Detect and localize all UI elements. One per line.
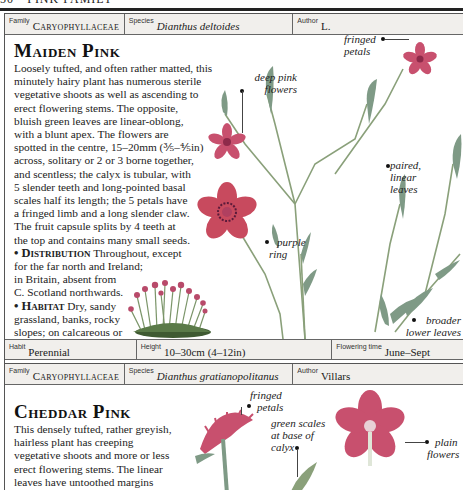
entry-maiden-pink: Family Caryophyllaceae Species Dianthus … (4, 13, 463, 368)
annotation-purple-ring: purple ring (269, 236, 306, 260)
leader-line (405, 442, 425, 443)
annotation-plain-flowers: plain flowers (427, 436, 459, 460)
leader-dot (386, 164, 390, 168)
annotation-line: deep pink (237, 71, 297, 83)
annotation-line: flowers (427, 448, 459, 460)
leader-line (241, 407, 242, 415)
leader-dot (412, 318, 416, 322)
leader-line (385, 39, 409, 40)
leader-line (242, 91, 243, 133)
flowering-time-field: Flowering time June–Sept (332, 340, 463, 359)
attributes-row: Habit Perennial Height 10–30cm (4–12in) … (5, 339, 463, 360)
height-field: Height 10–30cm (4–12in) (137, 340, 333, 359)
leader-dot (265, 240, 269, 244)
entry-cheddar-pink: Family Caryophyllaceae Species Dianthus … (4, 363, 463, 490)
plant-tuft-image (128, 280, 211, 338)
fringed-petal-flower (402, 42, 438, 76)
annotation-line: petals (247, 401, 283, 413)
annotation-line: flowers (237, 83, 297, 95)
cheddar-pink-illustration (5, 364, 463, 490)
annotation-line: plain (427, 436, 459, 448)
annotation-line: fringed (247, 389, 283, 401)
habit-field: Habit Perennial (5, 340, 137, 359)
annotation-paired-linear-leaves: paired, linear leaves (390, 159, 421, 195)
annotation-line: lower leaves (405, 326, 461, 338)
annotation-line: purple (269, 236, 306, 248)
height-label: Height (141, 343, 161, 350)
annotation-line: leaves (390, 183, 421, 195)
annotation-line: paired, (390, 159, 421, 171)
height-value: 10–30cm (4–12in) (164, 346, 246, 358)
side-view-flower (195, 410, 253, 490)
header-rule (0, 8, 463, 11)
annotation-line: fringed (344, 33, 376, 45)
page-header-text: 50 • PINK FAMILY (0, 0, 463, 4)
annotation-line: at base of (271, 429, 325, 441)
annotation-line: ring (269, 248, 306, 260)
calyx-leaf (290, 462, 317, 490)
leaves (221, 66, 461, 326)
page-header: 50 • PINK FAMILY (0, 0, 463, 8)
annotation-fringed-petals: fringed petals (344, 33, 376, 57)
annotation-line: green scales (271, 417, 325, 429)
leader-dot (247, 404, 251, 408)
flowering-time-label: Flowering time (336, 343, 382, 350)
annotation-line: petals (344, 45, 376, 57)
annotation-fringed-petals: fringed petals (247, 389, 283, 413)
annotation-line: linear (390, 171, 421, 183)
plain-flower (332, 390, 408, 466)
leader-line (297, 449, 298, 477)
purple-ring-flower (195, 182, 260, 243)
flowering-time-value: June–Sept (385, 346, 430, 358)
leader-dot (425, 440, 429, 444)
habit-value: Perennial (28, 346, 70, 358)
annotation-deep-pink-flowers: deep pink flowers (237, 71, 297, 95)
habit-label: Habit (9, 343, 25, 350)
